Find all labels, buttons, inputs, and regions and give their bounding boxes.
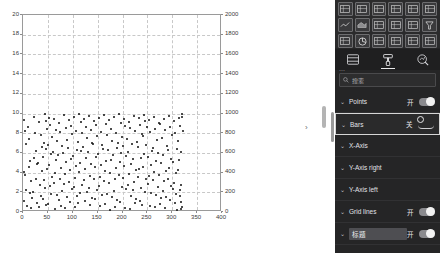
scatter-point[interactable] [181, 116, 183, 118]
scatter-icon[interactable] [338, 34, 353, 48]
scatter-point[interactable] [104, 203, 106, 205]
scatter-point[interactable] [26, 205, 28, 207]
scatter-point[interactable] [40, 195, 42, 197]
scatter-point[interactable] [104, 170, 106, 172]
scatter-point[interactable] [83, 179, 85, 181]
scatter-point[interactable] [174, 202, 176, 204]
scatter-point[interactable] [158, 174, 160, 176]
scatter-plot-area[interactable] [22, 14, 221, 211]
scatter-point[interactable] [134, 202, 136, 204]
line-stacked-icon[interactable] [372, 18, 387, 32]
ribbon-icon[interactable] [388, 18, 403, 32]
format-property-row[interactable]: ⌄Grid lines开 [335, 201, 440, 223]
scatter-point[interactable] [137, 176, 139, 178]
scatter-point[interactable] [33, 116, 35, 118]
scatter-point[interactable] [175, 193, 177, 195]
scatter-point[interactable] [101, 194, 103, 196]
scatter-point[interactable] [53, 182, 55, 184]
scatter-point[interactable] [83, 118, 85, 120]
scatter-point[interactable] [41, 146, 43, 148]
scatter-point[interactable] [29, 192, 31, 194]
scatter-point[interactable] [40, 134, 42, 136]
scatter-point[interactable] [55, 159, 57, 161]
scatter-point[interactable] [103, 180, 105, 182]
scatter-point[interactable] [178, 159, 180, 161]
scatter-point[interactable] [178, 117, 180, 119]
scatter-point[interactable] [37, 162, 39, 164]
scatter-point[interactable] [24, 130, 26, 132]
scatter-point[interactable] [56, 140, 58, 142]
scatter-point[interactable] [77, 202, 79, 204]
scatter-point[interactable] [47, 203, 49, 205]
scatter-point[interactable] [167, 178, 169, 180]
scatter-point[interactable] [139, 200, 141, 202]
column-clustered-icon[interactable] [388, 2, 403, 16]
chevron-down-icon[interactable]: ⌄ [340, 98, 345, 105]
scatter-point[interactable] [124, 125, 126, 127]
scatter-point[interactable] [75, 165, 77, 167]
scatter-point[interactable] [165, 196, 167, 198]
scatter-point[interactable] [118, 174, 120, 176]
scatter-point[interactable] [138, 168, 140, 170]
scatter-point[interactable] [130, 195, 132, 197]
scatter-point[interactable] [130, 163, 132, 165]
scatter-point[interactable] [58, 199, 60, 201]
chevron-down-icon[interactable]: ⌄ [340, 208, 345, 215]
scatter-point[interactable] [77, 141, 79, 143]
scatter-point[interactable] [159, 203, 161, 205]
scatter-point[interactable] [154, 206, 156, 208]
scatter-point[interactable] [149, 205, 151, 207]
scatter-point[interactable] [65, 127, 67, 129]
scatter-point[interactable] [122, 145, 124, 147]
chevron-down-icon[interactable]: ⌄ [340, 164, 345, 171]
scatter-point[interactable] [100, 131, 102, 133]
pie-icon[interactable] [355, 34, 370, 48]
scatter-point[interactable] [110, 128, 112, 130]
scatter-point[interactable] [164, 129, 166, 131]
chevron-down-icon[interactable]: ⌄ [340, 186, 345, 193]
scatter-point[interactable] [49, 124, 51, 126]
scatter-point[interactable] [143, 114, 145, 116]
scatter-point[interactable] [108, 119, 110, 121]
scatter-point[interactable] [94, 166, 96, 168]
format-property-row[interactable]: ⌄Y-Axis left [335, 179, 440, 201]
scatter-point[interactable] [177, 169, 179, 171]
scatter-point[interactable] [142, 135, 144, 137]
area-icon[interactable] [355, 18, 370, 32]
scatter-point[interactable] [35, 178, 37, 180]
scatter-point[interactable] [28, 138, 30, 140]
scatter-point[interactable] [180, 184, 182, 186]
scatter-point[interactable] [105, 123, 107, 125]
visualization-type-gallery[interactable]: R... [335, 0, 440, 48]
scatter-point[interactable] [64, 173, 66, 175]
scatter-point[interactable] [75, 130, 77, 132]
property-toggle[interactable] [418, 120, 434, 129]
format-property-row[interactable]: ⌄X-Axis [335, 135, 440, 157]
scatter-point[interactable] [79, 192, 81, 194]
scatter-point[interactable] [147, 156, 149, 158]
scatter-point[interactable] [181, 113, 183, 115]
scatter-point[interactable] [88, 115, 90, 117]
scatter-point[interactable] [176, 209, 178, 211]
funnel-icon[interactable] [422, 18, 437, 32]
scatter-point[interactable] [23, 119, 25, 121]
chevron-down-icon[interactable]: ⌄ [340, 142, 345, 149]
scatter-point[interactable] [49, 185, 51, 187]
waterfall-icon[interactable] [405, 18, 420, 32]
scatter-point[interactable] [97, 153, 99, 155]
scatter-point[interactable] [88, 187, 90, 189]
scatter-point[interactable] [29, 160, 31, 162]
scatter-point[interactable] [116, 147, 118, 149]
scatter-point[interactable] [74, 177, 76, 179]
scatter-point[interactable] [182, 130, 184, 132]
scatter-point[interactable] [122, 177, 124, 179]
scatter-point[interactable] [120, 152, 122, 154]
scatter-point[interactable] [133, 181, 135, 183]
scatter-point[interactable] [154, 128, 156, 130]
scatter-point[interactable] [177, 140, 179, 142]
scatter-point[interactable] [115, 167, 117, 169]
scatter-point[interactable] [117, 142, 119, 144]
scatter-point[interactable] [152, 179, 154, 181]
format-property-row[interactable]: ⌄Y-Axis right [335, 157, 440, 179]
scatter-point[interactable] [110, 159, 112, 161]
